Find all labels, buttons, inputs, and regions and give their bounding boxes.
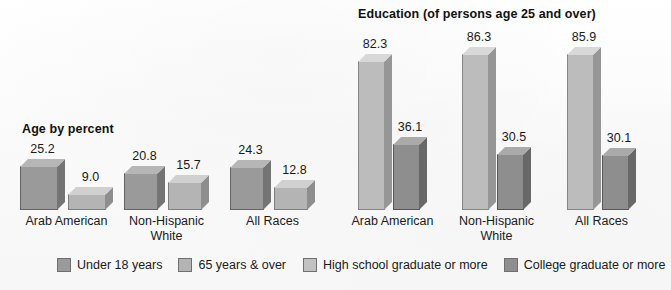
edu-bar-college-0 — [393, 145, 419, 210]
legend-swatch-icon — [303, 258, 317, 272]
age-bar-under18-0 — [20, 167, 57, 210]
bar-side-face — [419, 137, 427, 210]
legend-label: College graduate or more — [524, 258, 666, 272]
legend-label: 65 years & over — [198, 258, 286, 272]
bar-front-face — [393, 144, 420, 210]
edu-bar-highschool-1 — [462, 55, 488, 210]
bar-front-face — [567, 54, 594, 210]
age-chart-title: Age by percent — [22, 122, 114, 136]
legend-swatch-icon — [57, 258, 71, 272]
bar-front-face — [462, 54, 489, 210]
bar-value-label: 85.9 — [557, 30, 611, 44]
bar-value-label: 24.3 — [220, 143, 281, 157]
age-bar-over65-2 — [274, 188, 307, 210]
legend-label: Under 18 years — [77, 258, 162, 272]
bar-front-face — [168, 182, 202, 210]
education-legend-item-1: College graduate or more — [504, 258, 666, 272]
age-bar-over65-0 — [68, 195, 105, 210]
bar-value-label: 25.2 — [10, 142, 75, 156]
bar-value-label: 36.1 — [383, 120, 437, 134]
education-chart-title: Education (of persons age 25 and over) — [358, 7, 596, 21]
age-category-label-2: All Races — [208, 214, 337, 229]
bar-side-face — [488, 47, 496, 210]
legend-swatch-icon — [178, 258, 192, 272]
bar-front-face — [124, 173, 158, 210]
age-legend-item-1: 65 years & over — [178, 258, 286, 272]
bar-value-label: 12.8 — [264, 163, 325, 177]
bar-front-face — [602, 155, 629, 210]
bar-front-face — [20, 166, 58, 210]
bar-value-label: 15.7 — [158, 158, 219, 172]
edu-category-label-0: Arab American — [336, 214, 449, 229]
edu-bar-college-2 — [602, 156, 628, 210]
age-legend-item-0: Under 18 years — [57, 258, 162, 272]
age-bar-over65-1 — [168, 183, 201, 210]
bar-front-face — [230, 167, 264, 210]
age-bar-under18-2 — [230, 168, 263, 210]
bar-value-label: 9.0 — [58, 170, 123, 184]
education-legend-item-0: High school graduate or more — [303, 258, 488, 272]
bar-side-face — [628, 148, 636, 210]
bar-value-label: 30.5 — [487, 130, 541, 144]
bar-side-face — [57, 159, 65, 210]
bar-value-label: 82.3 — [348, 37, 402, 51]
legend-swatch-icon — [504, 258, 518, 272]
chart-canvas: Age by percent Education (of persons age… — [0, 0, 671, 290]
bar-front-face — [497, 154, 524, 210]
bar-value-label: 30.1 — [592, 131, 646, 145]
age-bar-under18-1 — [124, 174, 157, 210]
legend-label: High school graduate or more — [323, 258, 488, 272]
edu-bar-highschool-0 — [358, 62, 384, 210]
edu-category-label-2: All Races — [545, 214, 658, 229]
bar-front-face — [274, 187, 308, 210]
bar-front-face — [68, 194, 106, 210]
bar-side-face — [593, 47, 601, 210]
edu-bar-college-1 — [497, 155, 523, 210]
edu-bar-highschool-2 — [567, 55, 593, 210]
bar-front-face — [358, 61, 385, 210]
edu-category-label-1: Non-Hispanic White — [440, 214, 553, 244]
bar-side-face — [523, 147, 531, 210]
bar-value-label: 86.3 — [452, 30, 506, 44]
